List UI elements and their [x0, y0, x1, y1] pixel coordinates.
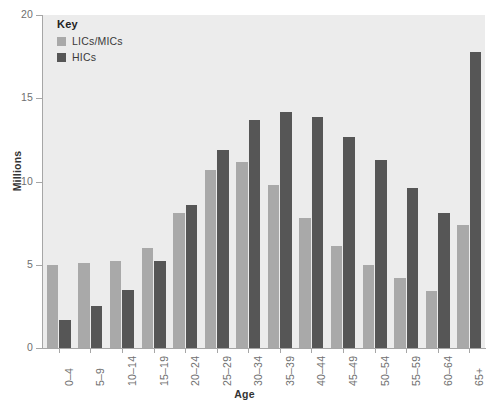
- y-axis-title: Millions: [11, 126, 23, 216]
- legend: Key LICs/MICs HICs: [57, 18, 123, 67]
- bar-hics: [217, 150, 229, 348]
- y-tick-label: 15: [0, 91, 33, 103]
- x-tick-label: 15–19: [158, 356, 170, 386]
- chart-figure: 05101520 Millions 0–45–910–1415–1920–242…: [0, 0, 489, 405]
- bar-licsmics: [78, 263, 90, 348]
- x-tick-label: 55–59: [410, 356, 422, 386]
- bar-licsmics: [47, 265, 59, 348]
- x-tick-label: 50–54: [379, 356, 391, 386]
- x-tick-label: 65+: [473, 368, 485, 386]
- y-tick-label: 0: [0, 341, 33, 353]
- y-tick-label: 20: [0, 8, 33, 20]
- x-tick-mark: [185, 349, 186, 353]
- legend-swatch-icon-licsmics: [57, 37, 66, 46]
- x-tick-mark: [438, 349, 439, 353]
- bar-hics: [470, 52, 482, 348]
- x-axis-line: [42, 348, 486, 349]
- legend-label-hics: HICs: [72, 51, 96, 63]
- bar-licsmics: [299, 218, 311, 348]
- bar-hics: [407, 188, 419, 348]
- x-tick-label: 0–4: [63, 368, 75, 386]
- x-tick-mark: [59, 349, 60, 353]
- legend-swatch-icon-hics: [57, 53, 66, 62]
- x-axis-title: Age: [0, 388, 489, 400]
- y-tick-label: 5: [0, 258, 33, 270]
- bar-hics: [280, 112, 292, 348]
- bar-hics: [186, 205, 198, 348]
- bar-hics: [59, 320, 71, 348]
- x-tick-mark: [154, 349, 155, 353]
- bar-hics: [375, 160, 387, 348]
- bar-hics: [154, 261, 166, 348]
- x-tick-label: 45–49: [347, 356, 359, 386]
- y-tick-mark: [36, 182, 42, 183]
- bar-hics: [312, 117, 324, 348]
- bar-licsmics: [426, 291, 438, 348]
- y-axis-line: [42, 15, 43, 349]
- bar-licsmics: [268, 185, 280, 348]
- x-tick-label: 5–9: [94, 368, 106, 386]
- bar-hics: [91, 306, 103, 348]
- x-tick-mark: [469, 349, 470, 353]
- x-tick-mark: [248, 349, 249, 353]
- x-tick-mark: [343, 349, 344, 353]
- x-tick-label: 10–14: [126, 356, 138, 386]
- x-tick-label: 30–34: [252, 356, 264, 386]
- top-edge-spacer: [0, 0, 489, 3]
- x-tick-mark: [311, 349, 312, 353]
- x-tick-mark: [375, 349, 376, 353]
- bar-licsmics: [236, 162, 248, 348]
- bar-licsmics: [363, 265, 375, 348]
- y-tick-mark: [36, 98, 42, 99]
- legend-label-licsmics: LICs/MICs: [72, 35, 123, 47]
- legend-item-licsmics: LICs/MICs: [57, 35, 123, 47]
- bar-licsmics: [110, 261, 122, 348]
- x-tick-label: 20–24: [189, 356, 201, 386]
- bar-licsmics: [173, 213, 185, 348]
- bar-hics: [343, 137, 355, 348]
- x-tick-label: 40–44: [315, 356, 327, 386]
- legend-title: Key: [57, 18, 123, 30]
- bar-licsmics: [331, 246, 343, 348]
- x-tick-mark: [90, 349, 91, 353]
- x-tick-mark: [217, 349, 218, 353]
- x-tick-label: 35–39: [284, 356, 296, 386]
- x-tick-mark: [406, 349, 407, 353]
- x-tick-mark: [280, 349, 281, 353]
- bar-licsmics: [142, 248, 154, 348]
- bar-licsmics: [394, 278, 406, 348]
- y-tick-mark: [36, 15, 42, 16]
- x-tick-mark: [122, 349, 123, 353]
- bar-licsmics: [205, 170, 217, 348]
- y-tick-mark: [36, 265, 42, 266]
- bar-hics: [249, 120, 261, 348]
- bar-hics: [438, 213, 450, 348]
- x-tick-label: 25–29: [221, 356, 233, 386]
- x-tick-label: 60–64: [442, 356, 454, 386]
- bar-licsmics: [457, 225, 469, 348]
- legend-item-hics: HICs: [57, 51, 123, 63]
- bar-hics: [122, 290, 134, 348]
